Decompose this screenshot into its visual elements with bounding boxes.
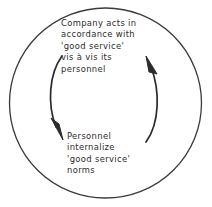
node-company-line-3: 'good service' (61, 41, 136, 52)
node-personnel-line-3: 'good service' (67, 154, 130, 165)
arrow-personnel-to-company (146, 56, 157, 142)
node-company-line-2: accordance with (61, 29, 136, 40)
arrow-right-up-shaft (146, 67, 157, 142)
node-personnel-line-1: Personnel (67, 131, 130, 142)
node-company-line-5: personnel (61, 64, 136, 75)
node-label-company: Company acts in accordance with 'good se… (61, 18, 136, 75)
arrow-right-up-head (146, 56, 157, 74)
cycle-diagram: Company acts in accordance with 'good se… (0, 0, 212, 207)
arrow-left-down-head (51, 118, 63, 140)
node-label-personnel: Personnel internalize 'good service' nor… (67, 131, 130, 177)
node-personnel-line-4: norms (67, 165, 130, 176)
node-company-line-1: Company acts in (61, 18, 136, 29)
node-personnel-line-2: internalize (67, 142, 130, 153)
node-company-line-4: vis à vis its (61, 52, 136, 63)
